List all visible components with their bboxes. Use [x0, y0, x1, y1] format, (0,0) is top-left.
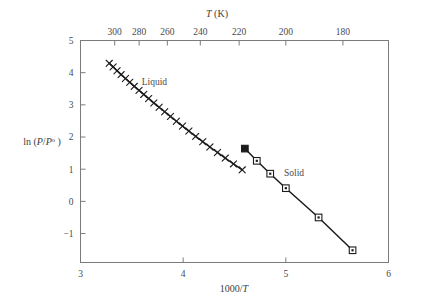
x-tick-label: 5: [283, 269, 288, 279]
x-tick-label: 4: [181, 269, 186, 279]
data-point-liquid: [173, 118, 179, 124]
bottom-axis-tick-labels: 3456: [78, 269, 391, 279]
top-tick-label: 240: [193, 27, 208, 37]
solid-curve: [245, 149, 353, 251]
data-point-solid: [267, 170, 274, 177]
y-axis-title: ln (P/Po ): [23, 136, 61, 149]
y-tick-label: 0: [69, 197, 74, 207]
x-tick-label: 3: [78, 269, 83, 279]
data-point-liquid: [146, 95, 152, 101]
y-tick-label: −1: [63, 229, 73, 239]
top-tick-label: 180: [336, 27, 351, 37]
data-point-liquid: [207, 144, 213, 150]
data-point-triple: [242, 145, 249, 152]
top-axis-ticks: [115, 41, 343, 46]
axes-rectangle: [81, 41, 389, 263]
annotation-solid: Solid: [284, 168, 304, 178]
data-point-liquid: [214, 149, 220, 155]
data-point-liquid: [200, 139, 206, 145]
y-tick-label: 4: [69, 68, 74, 78]
top-axis-tick-labels: 300280260240220200180: [108, 27, 351, 37]
y-axis-tick-labels: 543210−1: [63, 36, 73, 239]
data-point-liquid: [151, 100, 157, 106]
data-point-liquid: [222, 155, 228, 161]
data-point-solid: [349, 247, 356, 254]
data-point-liquid: [167, 113, 173, 119]
x-tick-label: 6: [386, 269, 391, 279]
y-tick-label: 5: [69, 36, 74, 46]
data-point-solid: [315, 214, 322, 221]
data-point-liquid: [186, 128, 192, 134]
plot-frame: [81, 41, 389, 263]
top-tick-label: 280: [132, 27, 147, 37]
data-point-liquid: [162, 109, 168, 115]
top-tick-label: 220: [232, 27, 247, 37]
curve-annotations: LiquidSolid: [142, 77, 305, 178]
chart-svg: 300280260240220200180 T (K) 3456 1000/T …: [0, 0, 434, 302]
data-point-liquid: [179, 123, 185, 129]
data-point-liquid: [230, 161, 236, 167]
liquid-data-markers: [106, 60, 245, 173]
top-tick-label: 200: [279, 27, 294, 37]
top-axis-title: T (K): [206, 8, 228, 20]
liquid-curve: [109, 63, 242, 170]
y-axis-ticks: [81, 41, 86, 234]
vapor-pressure-chart: 300280260240220200180 T (K) 3456 1000/T …: [0, 0, 434, 302]
y-tick-label: 2: [69, 132, 74, 142]
top-tick-label: 260: [160, 27, 175, 37]
top-tick-label: 300: [108, 27, 123, 37]
data-point-liquid: [193, 133, 199, 139]
annotation-liquid: Liquid: [142, 77, 168, 87]
bottom-axis-ticks: [81, 258, 389, 263]
data-point-solid: [253, 158, 260, 165]
data-point-liquid: [239, 167, 245, 173]
data-point-liquid: [156, 104, 162, 110]
y-tick-label: 3: [69, 100, 74, 110]
data-point-solid: [283, 185, 290, 192]
x-axis-title: 1000/T: [220, 283, 250, 294]
y-tick-label: 1: [69, 165, 74, 175]
